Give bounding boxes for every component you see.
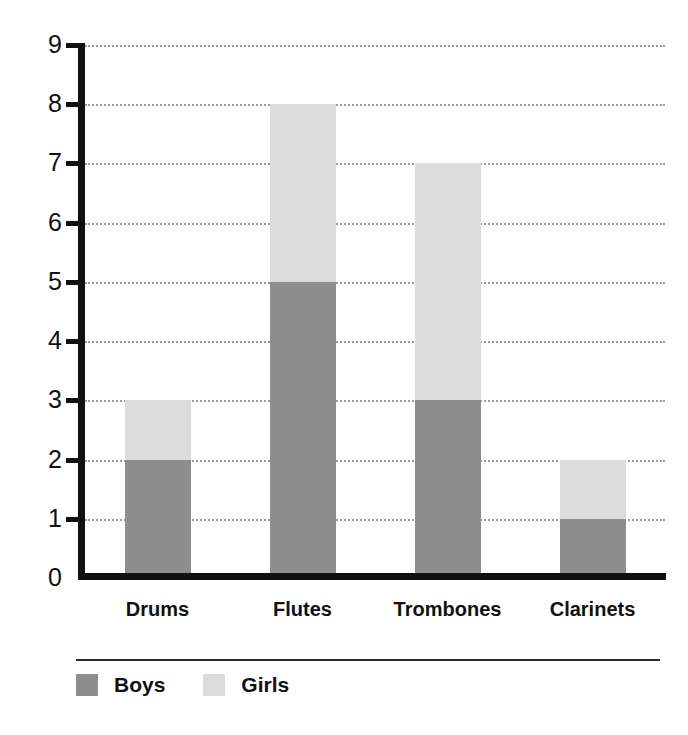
x-axis-category-label: Clarinets [520, 598, 665, 621]
y-axis-tick-label: 7 [18, 150, 62, 175]
bar-segment [560, 460, 626, 519]
bar-stack [415, 163, 481, 578]
legend-separator [76, 659, 660, 661]
legend-label: Girls [241, 673, 289, 697]
y-axis-tick-label: 4 [18, 328, 62, 353]
bar-stack [270, 104, 336, 578]
y-axis-tick-label: 2 [18, 447, 62, 472]
x-axis-line [78, 573, 666, 580]
bar-stack [560, 460, 626, 578]
legend-swatch-icon [203, 674, 225, 696]
y-axis-tick-label: 6 [18, 210, 62, 235]
bar-segment [270, 282, 336, 578]
bar-segment [125, 460, 191, 578]
y-axis-tick-label: 8 [18, 91, 62, 116]
legend-swatch-icon [76, 674, 98, 696]
bar-segment [560, 519, 626, 578]
legend-item[interactable]: Girls [203, 673, 289, 697]
bar-segment [415, 400, 481, 578]
x-axis-category-label: Drums [85, 598, 230, 621]
stacked-bar-chart: 0123456789 DrumsFlutesTrombonesClarinets… [0, 0, 688, 735]
y-axis-tick-label: 0 [18, 565, 62, 590]
y-axis-line [78, 43, 85, 580]
legend: BoysGirls [76, 673, 327, 697]
bars-layer [85, 45, 665, 578]
x-axis-category-label: Flutes [230, 598, 375, 621]
bar-stack [125, 400, 191, 578]
y-axis-tick-label: 3 [18, 387, 62, 412]
y-axis-tick-label: 1 [18, 506, 62, 531]
y-axis-tick-label: 9 [18, 32, 62, 57]
bar-segment [270, 104, 336, 282]
y-axis-tick-label: 5 [18, 269, 62, 294]
bar-segment [125, 400, 191, 459]
legend-item[interactable]: Boys [76, 673, 165, 697]
x-axis-category-label: Trombones [375, 598, 520, 621]
bar-segment [415, 163, 481, 400]
legend-label: Boys [114, 673, 165, 697]
